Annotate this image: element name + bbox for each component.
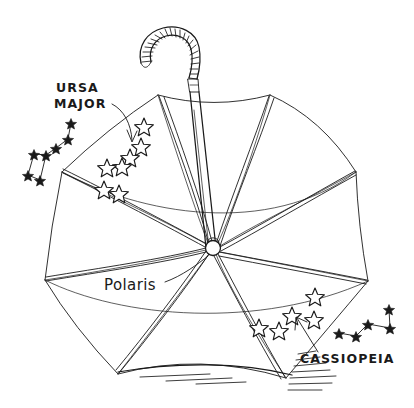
label-ursa-major-line1: URSA (56, 80, 99, 95)
umbrella-hub (206, 238, 221, 256)
label-ursa-major-line2: MAJOR (54, 96, 107, 111)
cassiopeia-connector-lines (339, 309, 390, 336)
rib-left-upper (63, 169, 205, 247)
canopy-scallop-right (356, 172, 368, 281)
canopy-scallop-bottom (118, 364, 286, 378)
canopy-scallop-top (158, 95, 270, 103)
label-polaris: Polaris (104, 276, 156, 294)
rib-top-right (216, 96, 274, 246)
ursa-major-arrow (112, 104, 137, 142)
rib-right-lower (219, 252, 367, 284)
sky-constellation-cassiopeia (333, 305, 395, 343)
cassiopeia-stars (333, 305, 395, 343)
umbrella-constellation-drawing: URSA MAJOR Polaris CASSIOPEIA (0, 0, 414, 408)
canopy-stars-ursa-major (95, 118, 154, 203)
umbrella-ribs (46, 96, 367, 379)
rib-bottom-left (116, 251, 209, 373)
canopy-scallop-lower-left (45, 280, 118, 374)
handle-collar (188, 79, 199, 92)
umbrella-handle (140, 27, 200, 92)
canopy-scallop-left (45, 172, 62, 280)
illustration-canvas: URSA MAJOR Polaris CASSIOPEIA (0, 0, 414, 408)
label-cassiopeia: CASSIOPEIA (300, 351, 395, 366)
canopy-stars-cassiopeia (250, 288, 325, 340)
canopy-scallop-upper-right (270, 95, 356, 172)
